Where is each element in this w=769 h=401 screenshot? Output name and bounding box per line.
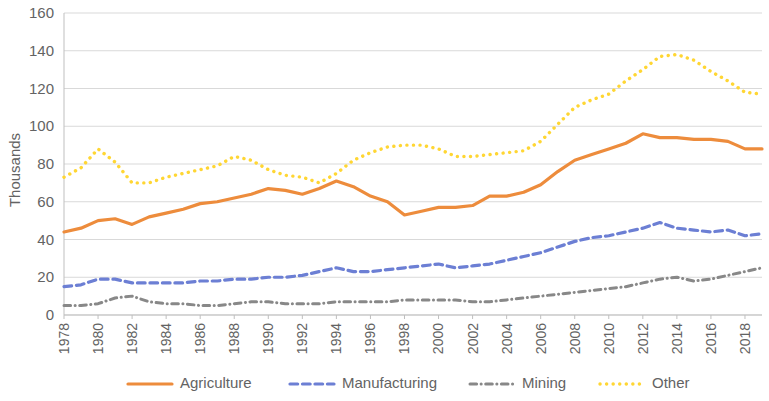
x-tick-label: 2002 xyxy=(465,323,481,354)
x-axis-tick-labels: 1978198019821984198619881990199219941996… xyxy=(56,323,753,354)
legend-label-manufacturing[interactable]: Manufacturing xyxy=(342,374,437,391)
x-tick-label: 2008 xyxy=(567,323,583,354)
x-tick-label: 1984 xyxy=(158,323,174,354)
series-line-mining xyxy=(64,268,762,306)
x-tick-label: 1992 xyxy=(294,323,310,354)
chart-legend: AgricultureManufacturingMiningOther xyxy=(128,374,690,391)
x-tick-label: 1994 xyxy=(328,323,344,354)
y-tick-label: 20 xyxy=(37,268,54,285)
y-tick-label: 100 xyxy=(29,117,54,134)
y-tick-label: 120 xyxy=(29,80,54,97)
x-tick-label: 1980 xyxy=(90,323,106,354)
chart-canvas: 020406080100120140160 197819801982198419… xyxy=(0,0,769,401)
series-line-agriculture xyxy=(64,134,762,232)
x-tick-label: 2016 xyxy=(703,323,719,354)
y-tick-label: 80 xyxy=(37,155,54,172)
x-tick-label: 2010 xyxy=(601,323,617,354)
y-axis-title: Thousands xyxy=(6,133,23,207)
y-axis-tick-labels: 020406080100120140160 xyxy=(29,4,54,323)
x-tick-label: 1978 xyxy=(56,323,72,354)
x-tick-label: 1988 xyxy=(226,323,242,354)
x-tick-label: 2014 xyxy=(669,323,685,354)
x-tick-label: 1998 xyxy=(396,323,412,354)
line-chart: 020406080100120140160 197819801982198419… xyxy=(0,0,769,401)
y-tick-label: 160 xyxy=(29,4,54,21)
x-tick-label: 1996 xyxy=(362,323,378,354)
x-tick-label: 2004 xyxy=(499,323,515,354)
y-tick-label: 0 xyxy=(46,306,54,323)
x-tick-label: 2000 xyxy=(430,323,446,354)
x-tick-label: 2012 xyxy=(635,323,651,354)
legend-label-agriculture[interactable]: Agriculture xyxy=(180,374,252,391)
x-tick-label: 2018 xyxy=(737,323,753,354)
y-tick-label: 140 xyxy=(29,42,54,59)
x-tick-label: 1986 xyxy=(192,323,208,354)
x-tick-label: 1982 xyxy=(124,323,140,354)
legend-label-mining[interactable]: Mining xyxy=(522,374,566,391)
y-tick-label: 60 xyxy=(37,193,54,210)
x-tick-label: 1990 xyxy=(260,323,276,354)
data-series-group xyxy=(64,55,762,306)
x-tick-label: 2006 xyxy=(533,323,549,354)
y-tick-label: 40 xyxy=(37,231,54,248)
legend-label-other[interactable]: Other xyxy=(652,374,690,391)
